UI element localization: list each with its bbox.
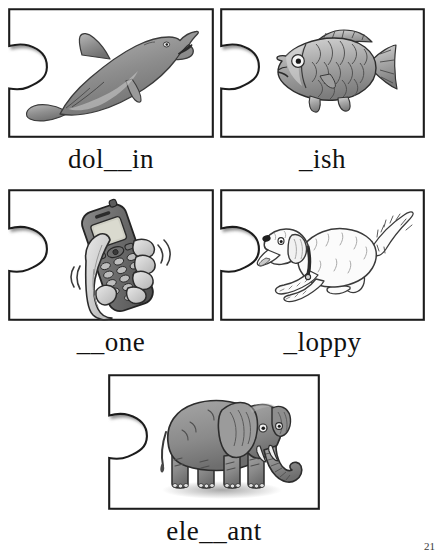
puzzle-card-floppy[interactable] xyxy=(220,189,425,321)
card-label-dolphin: dol__in xyxy=(8,144,214,174)
fish-card-figure xyxy=(220,8,425,138)
card-label-elephant: ele__ant xyxy=(108,516,320,546)
card-label-phone: __one xyxy=(8,327,214,357)
puzzle-card-dolphin[interactable] xyxy=(8,8,214,138)
dolphin-card-figure xyxy=(8,8,214,138)
page-number: 21 xyxy=(421,540,435,551)
puzzle-card-fish[interactable] xyxy=(220,8,425,138)
card-label-floppy: _loppy xyxy=(220,327,425,357)
puzzle-card-phone[interactable] xyxy=(8,189,214,321)
phone-card-figure xyxy=(8,189,214,321)
dog-card-figure xyxy=(220,189,425,321)
phonics-worksheet: dol__in xyxy=(0,0,436,551)
elephant-card-figure xyxy=(108,374,320,510)
card-label-fish: _ish xyxy=(220,144,425,174)
puzzle-card-elephant[interactable] xyxy=(108,374,320,510)
